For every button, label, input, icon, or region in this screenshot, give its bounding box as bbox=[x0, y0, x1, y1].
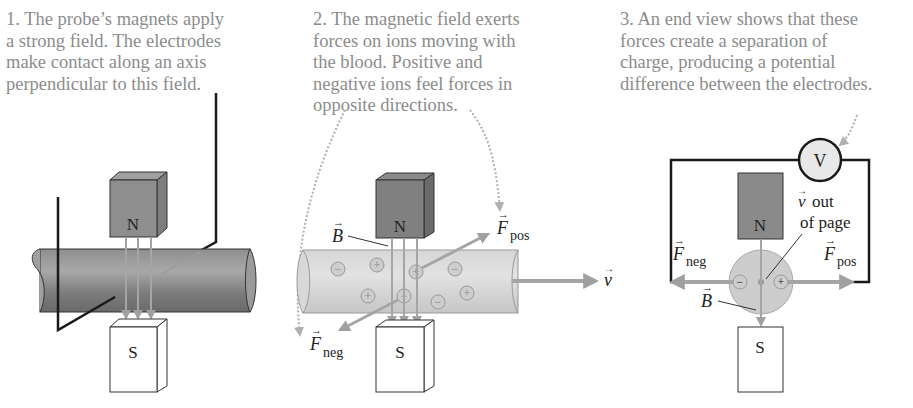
vector-arrow-glyph: → bbox=[797, 185, 807, 196]
south-label-3: S bbox=[755, 338, 764, 357]
negative-ion: − bbox=[431, 295, 445, 309]
svg-text:B: B bbox=[332, 226, 343, 246]
south-magnet: S bbox=[110, 319, 167, 392]
f-pos-label: F → pos bbox=[496, 208, 529, 243]
blood-vessel bbox=[32, 249, 256, 312]
blood-vessel-2 bbox=[297, 250, 518, 313]
vector-arrow-glyph: → bbox=[498, 208, 509, 220]
negative-ion: − bbox=[448, 262, 462, 276]
svg-text:F: F bbox=[496, 218, 509, 238]
svg-text:out: out bbox=[812, 192, 834, 211]
panel-1-illustration: N S bbox=[32, 93, 256, 392]
south-label: S bbox=[128, 343, 137, 362]
b-field-label-3: B → bbox=[701, 281, 713, 311]
svg-text:−: − bbox=[452, 262, 459, 276]
north-label-3: N bbox=[754, 216, 766, 235]
north-label: N bbox=[127, 215, 139, 234]
vector-arrow-glyph: → bbox=[333, 216, 344, 228]
flow-probe-diagram: N S bbox=[0, 0, 913, 408]
vector-arrow-glyph: → bbox=[604, 263, 614, 274]
f-neg-label: F → neg bbox=[309, 324, 343, 360]
svg-text:neg: neg bbox=[323, 345, 343, 360]
svg-text:−: − bbox=[737, 275, 744, 289]
pointer-to-f-pos bbox=[470, 110, 500, 210]
negative-ion: − bbox=[331, 262, 345, 276]
svg-text:pos: pos bbox=[510, 228, 529, 243]
svg-text:+: + bbox=[778, 275, 785, 289]
svg-text:of page: of page bbox=[800, 213, 851, 232]
svg-text:−: − bbox=[335, 262, 342, 276]
north-label-2: N bbox=[394, 217, 406, 236]
panel-3-illustration: V N − + v → out of page bbox=[670, 115, 869, 392]
positive-ion: + bbox=[460, 286, 474, 300]
vector-arrow-glyph: → bbox=[311, 324, 322, 336]
electrode-wire-back bbox=[198, 93, 216, 252]
v-label: v → bbox=[604, 263, 614, 290]
vector-arrow-glyph: → bbox=[825, 234, 836, 246]
svg-text:+: + bbox=[464, 286, 471, 300]
south-label-2: S bbox=[395, 343, 404, 362]
b-field-label: B → bbox=[332, 216, 344, 246]
pointer-to-voltmeter bbox=[840, 115, 857, 145]
panel-2-illustration: N − + + − + − − + bbox=[297, 110, 614, 392]
v-out-of-page-label: v → out of page bbox=[797, 185, 851, 232]
f-neg-label-3: F → neg bbox=[672, 234, 706, 269]
positive-ion-3: + bbox=[774, 275, 788, 289]
north-magnet: N bbox=[110, 172, 167, 237]
north-magnet-2: N bbox=[376, 173, 434, 238]
negative-ion-3: − bbox=[733, 275, 747, 289]
positive-ion: + bbox=[370, 258, 384, 272]
voltmeter-label: V bbox=[814, 151, 827, 171]
voltmeter: V bbox=[799, 139, 841, 181]
svg-text:B: B bbox=[701, 291, 712, 311]
north-magnet-3: N bbox=[738, 173, 783, 239]
vector-arrow-glyph: → bbox=[702, 281, 713, 293]
svg-text:F: F bbox=[823, 244, 836, 264]
south-magnet-2: S bbox=[376, 320, 434, 392]
svg-text:F: F bbox=[309, 334, 322, 354]
vector-arrow-glyph: → bbox=[674, 234, 685, 246]
svg-text:−: − bbox=[435, 295, 442, 309]
svg-text:F: F bbox=[672, 244, 685, 264]
svg-text:+: + bbox=[374, 258, 381, 272]
south-magnet-3: S bbox=[738, 327, 783, 392]
svg-text:pos: pos bbox=[837, 254, 856, 269]
positive-ion: + bbox=[361, 289, 375, 303]
f-pos-label-3: F → pos bbox=[823, 234, 856, 269]
svg-text:neg: neg bbox=[686, 254, 706, 269]
svg-text:+: + bbox=[365, 289, 372, 303]
